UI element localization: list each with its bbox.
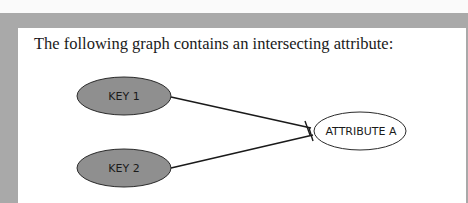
node-key-1: KEY 1	[77, 77, 171, 115]
node-attribute-a-label: ATTRIBUTE A	[325, 125, 397, 138]
node-attribute-a: ATTRIBUTE A	[314, 112, 406, 150]
node-key-2: KEY 2	[77, 149, 171, 187]
diagram: KEY 1 KEY 2 ATTRIBUTE A	[0, 0, 468, 203]
edge-key1-attribute-a	[171, 97, 311, 135]
edge-key2-attribute-a	[171, 128, 313, 168]
node-key-1-label: KEY 1	[108, 90, 139, 103]
node-key-2-label: KEY 2	[108, 162, 139, 175]
